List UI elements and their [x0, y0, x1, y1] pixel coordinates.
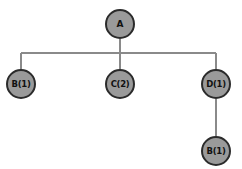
tree-node-root-label: A	[117, 19, 124, 29]
tree-node-b1-label: B(1)	[12, 79, 31, 89]
tree-node-b1-sub[interactable]: B(1)	[201, 136, 231, 166]
diagram-canvas: A B(1) C(2) D(1) B(1)	[0, 0, 242, 169]
tree-node-b1[interactable]: B(1)	[6, 69, 36, 99]
tree-node-d1[interactable]: D(1)	[201, 69, 231, 99]
tree-node-d1-label: D(1)	[206, 79, 226, 89]
tree-node-b1-sub-label: B(1)	[207, 146, 226, 156]
tree-node-c2-label: C(2)	[111, 79, 130, 89]
tree-node-c2[interactable]: C(2)	[105, 69, 135, 99]
tree-node-root[interactable]: A	[105, 9, 135, 39]
